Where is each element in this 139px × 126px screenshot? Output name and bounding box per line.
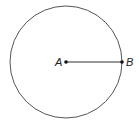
label-a: A [54,56,62,68]
circle-diagram: A B [0,0,139,126]
point-a [64,60,68,64]
label-b: B [126,56,133,68]
point-b [120,60,124,64]
